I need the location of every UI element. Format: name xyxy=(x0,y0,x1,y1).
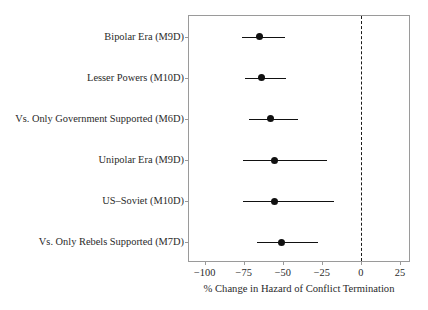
x-axis-tick-label: −25 xyxy=(314,267,330,278)
x-axis-title: % Change in Hazard of Conflict Terminati… xyxy=(188,283,410,294)
y-axis-label: Vs. Only Rebels Supported (M7D) xyxy=(0,236,184,247)
x-axis-tick-label: −50 xyxy=(275,267,291,278)
x-axis-tick xyxy=(322,261,323,265)
y-axis-tick xyxy=(185,242,189,243)
point-estimate-marker xyxy=(271,198,278,205)
confidence-interval-line xyxy=(243,160,327,161)
y-axis-tick xyxy=(185,160,189,161)
x-axis-tick-label: 0 xyxy=(358,267,363,278)
x-axis-tick xyxy=(361,261,362,265)
point-estimate-marker xyxy=(271,157,278,164)
y-axis-tick xyxy=(185,201,189,202)
y-axis-label: US–Soviet (M10D) xyxy=(0,195,184,206)
point-estimate-marker xyxy=(278,239,285,246)
x-axis-tick xyxy=(283,261,284,265)
point-estimate-marker xyxy=(256,33,263,40)
confidence-interval-line xyxy=(242,37,285,38)
y-axis-label: Bipolar Era (M9D) xyxy=(0,30,184,41)
confidence-interval-line xyxy=(243,201,334,202)
point-estimate-marker xyxy=(258,74,265,81)
y-axis-tick xyxy=(185,119,189,120)
y-axis-tick xyxy=(185,37,189,38)
y-axis-label: Vs. Only Government Supported (M6D) xyxy=(0,112,184,123)
y-axis-tick xyxy=(185,78,189,79)
forest-plot-figure: −100−75−50−25025 Bipolar Era (M9D)Lesser… xyxy=(0,0,428,310)
zero-reference-line xyxy=(361,16,362,261)
confidence-interval-line xyxy=(245,78,286,79)
x-axis-tick xyxy=(400,261,401,265)
x-axis-tick-label: 25 xyxy=(395,267,405,278)
point-estimate-marker xyxy=(267,115,274,122)
plot-area: −100−75−50−25025 xyxy=(188,15,410,262)
x-axis-tick-label: −100 xyxy=(194,267,215,278)
x-axis-tick-label: −75 xyxy=(236,267,252,278)
x-axis-tick xyxy=(205,261,206,265)
y-axis-label: Unipolar Era (M9D) xyxy=(0,154,184,165)
confidence-interval-line xyxy=(257,242,318,243)
x-axis-tick xyxy=(244,261,245,265)
y-axis-label: Lesser Powers (M10D) xyxy=(0,71,184,82)
